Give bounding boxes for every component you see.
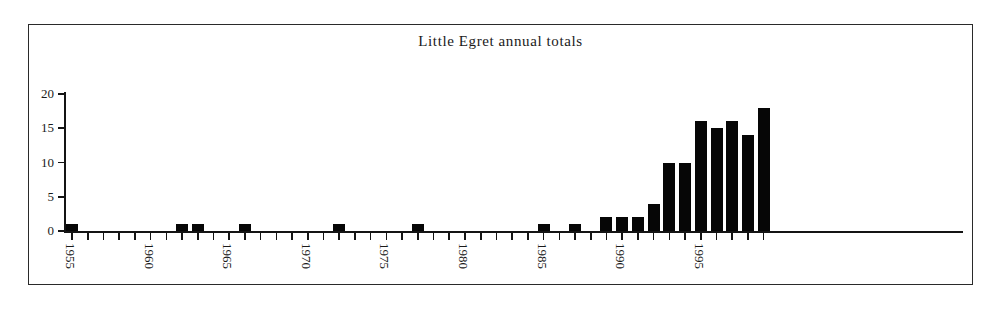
x-axis-tick [417,233,419,240]
x-axis-tick [700,233,702,240]
x-axis-tick [574,233,576,240]
x-axis-tick [716,233,718,240]
x-axis-tick [763,233,765,240]
x-axis-tick-label: 1975 [378,243,391,269]
y-axis-tick-label: 10 [28,156,54,169]
bar [679,163,691,232]
x-axis-tick [606,233,608,240]
x-axis-tick [653,233,655,240]
x-axis-tick [197,233,199,240]
x-axis-tick [338,233,340,240]
bar [192,224,204,231]
x-axis-tick [71,233,73,240]
x-axis-tick [433,233,435,240]
bar [412,224,424,231]
bar [239,224,251,231]
bar [742,135,754,231]
bar [758,108,770,231]
x-axis-tick [590,233,592,240]
x-axis-tick-label: 1985 [536,243,549,269]
x-axis-tick-label: 1990 [614,243,627,269]
x-axis-tick-label: 1955 [64,243,77,269]
x-axis-tick [669,233,671,240]
x-axis-tick [731,233,733,240]
x-axis-line [64,231,963,233]
x-axis-tick-label: 1960 [143,243,156,269]
x-axis-tick [496,233,498,240]
x-axis-tick [464,233,466,240]
x-axis-tick-label: 1980 [457,243,470,269]
x-axis-tick [354,233,356,240]
bar [176,224,188,231]
x-axis-tick-label: 1995 [693,243,706,269]
y-axis-tick-label: 15 [28,121,54,134]
y-axis-tick [58,93,65,95]
x-axis-tick [276,233,278,240]
x-axis-tick [307,233,309,240]
figure-container: Little Egret annual totals 05101520 1955… [0,0,1003,310]
y-axis-tick-label: 0 [28,224,54,237]
x-axis-tick [621,233,623,240]
x-axis-tick [213,233,215,240]
y-axis-tick [58,230,65,232]
x-axis-tick [511,233,513,240]
x-axis-tick [480,233,482,240]
x-axis-tick [386,233,388,240]
bar [333,224,345,231]
y-axis-tick [58,127,65,129]
x-axis-tick [559,233,561,240]
bar [711,128,723,231]
x-axis-tick [134,233,136,240]
x-axis-tick [637,233,639,240]
x-axis-tick-label: 1965 [221,243,234,269]
x-axis-tick [228,233,230,240]
x-axis-tick [291,233,293,240]
x-axis-tick [244,233,246,240]
x-axis-tick [260,233,262,240]
bar [569,224,581,231]
plot-area: 05101520 1955196019651970197519801985199… [0,0,1003,310]
x-axis-tick [87,233,89,240]
x-axis-tick [103,233,105,240]
x-axis-tick-label: 1970 [300,243,313,269]
x-axis-tick [166,233,168,240]
y-axis-tick [58,196,65,198]
x-axis-tick [448,233,450,240]
x-axis-tick [543,233,545,240]
y-axis-tick [58,162,65,164]
bar [66,224,78,231]
x-axis-tick [323,233,325,240]
bar [632,217,644,231]
y-axis-tick-label: 5 [28,190,54,203]
bar [726,121,738,231]
bar [695,121,707,231]
y-axis-tick-label: 20 [28,87,54,100]
bar [538,224,550,231]
x-axis-tick [370,233,372,240]
x-axis-tick [118,233,120,240]
x-axis-tick [747,233,749,240]
x-axis-tick [684,233,686,240]
bar [648,204,660,231]
bar [616,217,628,231]
x-axis-tick [181,233,183,240]
x-axis-tick [401,233,403,240]
x-axis-tick [527,233,529,240]
bar [663,163,675,232]
bar [600,217,612,231]
x-axis-tick [150,233,152,240]
